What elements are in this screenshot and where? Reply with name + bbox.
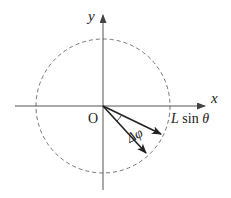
radius-label-theta: θ	[202, 111, 209, 126]
radius-label-sin: sin	[179, 111, 202, 126]
rotating-vector-diagram: y x O L sin θ Δφ	[0, 0, 231, 198]
radius-label-L: L	[170, 111, 179, 126]
origin-label: O	[88, 111, 98, 126]
angle-arc	[117, 115, 122, 121]
angle-label: Δφ	[123, 125, 145, 146]
radius-label: L sin θ	[170, 111, 209, 126]
x-axis-label: x	[210, 90, 218, 106]
y-axis-label: y	[86, 8, 95, 24]
